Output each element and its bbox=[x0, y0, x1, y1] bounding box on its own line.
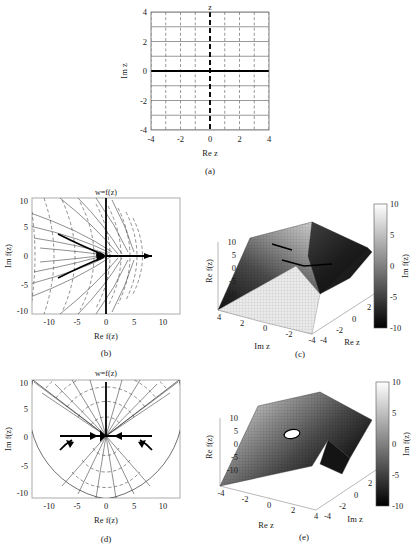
svg-text:10: 10 bbox=[228, 237, 237, 247]
svg-text:-5: -5 bbox=[231, 452, 238, 462]
svg-text:0: 0 bbox=[24, 251, 28, 261]
svg-text:-2: -2 bbox=[336, 325, 343, 335]
panel-d-title: w=f(z) bbox=[95, 369, 117, 378]
svg-text:0: 0 bbox=[208, 134, 212, 144]
panel-a-title: z bbox=[208, 3, 212, 12]
bold-image-lines bbox=[60, 382, 152, 450]
svg-text:5: 5 bbox=[232, 250, 236, 260]
panel-a-grid bbox=[151, 12, 269, 130]
svg-text:-10: -10 bbox=[227, 465, 238, 475]
svg-text:-2: -2 bbox=[285, 329, 292, 339]
svg-text:5: 5 bbox=[132, 501, 136, 511]
panel-e-zticks: 10 5 0 -5 -10 bbox=[227, 413, 238, 475]
svg-text:10: 10 bbox=[20, 378, 29, 388]
panel-b: w=f(z) bbox=[0, 182, 205, 360]
svg-text:0: 0 bbox=[263, 323, 267, 333]
panel-d-curves bbox=[29, 362, 183, 499]
colorbar-tick: 10 bbox=[390, 199, 399, 209]
svg-text:-10: -10 bbox=[17, 306, 28, 316]
svg-text:5: 5 bbox=[234, 426, 238, 436]
svg-text:0: 0 bbox=[104, 501, 108, 511]
panel-c-plot: 10 5 0 -5 -10 Re f(z) 4 2 0 -2 -4 Im z -… bbox=[200, 182, 413, 360]
panel-b-xlabel: Re f(z) bbox=[94, 331, 118, 341]
colorbar-tick: 5 bbox=[390, 230, 394, 240]
panel-d-yticks: 10 5 0 -5 -10 bbox=[17, 378, 28, 498]
panel-e-colorbar: 10 5 0 -5 -10 Im f(z) bbox=[376, 377, 411, 511]
panel-c-zlabel: Re f(z) bbox=[204, 259, 214, 283]
panel-d-caption: (d) bbox=[101, 534, 112, 544]
panel-d: w=f(z) bbox=[0, 362, 205, 552]
panel-c: 10 5 0 -5 -10 Re f(z) 4 2 0 -2 -4 Im z -… bbox=[200, 182, 413, 360]
panel-e: 10 5 0 -5 -10 Re f(z) -4 -2 0 2 4 Re z -… bbox=[200, 362, 413, 552]
svg-text:10: 10 bbox=[20, 196, 29, 206]
svg-text:2: 2 bbox=[368, 478, 372, 488]
svg-text:0: 0 bbox=[104, 317, 108, 327]
svg-text:-5: -5 bbox=[21, 461, 28, 471]
panel-d-ylabel: Im f(z) bbox=[3, 427, 13, 451]
svg-text:-5: -5 bbox=[229, 276, 236, 286]
panel-e-xlabel: Re z bbox=[258, 520, 274, 530]
panel-c-ylabel: Re z bbox=[344, 337, 360, 347]
svg-text:-4: -4 bbox=[324, 511, 332, 521]
panel-b-ylabel: Im f(z) bbox=[3, 244, 13, 268]
panel-b-curves bbox=[28, 198, 152, 314]
svg-text:4: 4 bbox=[314, 511, 319, 521]
panel-d-xlabel: Re f(z) bbox=[94, 515, 118, 525]
panel-b-plot: w=f(z) bbox=[0, 182, 205, 360]
svg-text:-2: -2 bbox=[339, 501, 346, 511]
panel-e-yticks: -4 -2 0 2 4 bbox=[324, 467, 383, 521]
panel-e-caption: (e) bbox=[299, 532, 309, 542]
svg-text:-4: -4 bbox=[217, 488, 225, 498]
colorbar-label: Im f(z) bbox=[401, 432, 411, 456]
colorbar-tick: -10 bbox=[390, 323, 401, 333]
svg-text:2: 2 bbox=[240, 318, 244, 328]
svg-text:0: 0 bbox=[143, 66, 147, 76]
panel-c-xlabel: Im z bbox=[254, 341, 270, 351]
colorbar-tick: -10 bbox=[392, 501, 403, 511]
panel-b-yticks: 10 5 0 -5 -10 bbox=[17, 196, 28, 316]
svg-text:-10: -10 bbox=[43, 317, 54, 327]
svg-text:2: 2 bbox=[143, 37, 147, 47]
svg-text:0: 0 bbox=[232, 263, 236, 273]
panel-c-colorbar: 10 5 0 -5 -10 Im f(z) bbox=[374, 199, 410, 333]
svg-text:4: 4 bbox=[267, 134, 272, 144]
svg-text:-2: -2 bbox=[177, 134, 184, 144]
svg-text:-4: -4 bbox=[147, 134, 155, 144]
panel-c-zticks: 10 5 0 -5 -10 bbox=[225, 237, 236, 299]
svg-text:2: 2 bbox=[291, 505, 295, 515]
svg-text:4: 4 bbox=[143, 7, 148, 17]
svg-text:2: 2 bbox=[237, 134, 241, 144]
colorbar-tick: -5 bbox=[392, 470, 399, 480]
panel-a-ylabel: Im z bbox=[119, 63, 129, 79]
panel-b-xticks: -10 -5 0 5 10 bbox=[43, 317, 167, 327]
panel-e-surface bbox=[220, 392, 372, 486]
panel-e-ylabel: Im z bbox=[347, 514, 363, 524]
svg-text:0: 0 bbox=[352, 314, 356, 324]
panel-c-caption: (c) bbox=[295, 349, 305, 359]
colorbar-tick: 10 bbox=[392, 377, 401, 387]
panel-b-title: w=f(z) bbox=[95, 188, 117, 197]
colorbar-tick: 5 bbox=[392, 408, 396, 418]
panel-b-caption: (b) bbox=[101, 348, 112, 358]
panel-a: z 4 2 0 -2 -4 - bbox=[105, 0, 305, 180]
svg-text:-5: -5 bbox=[21, 280, 28, 290]
svg-text:0: 0 bbox=[354, 490, 358, 500]
svg-text:-10: -10 bbox=[43, 501, 54, 511]
colorbar-label: Im f(z) bbox=[400, 254, 410, 278]
panel-e-plot: 10 5 0 -5 -10 Re f(z) -4 -2 0 2 4 Re z -… bbox=[200, 362, 413, 552]
svg-text:10: 10 bbox=[230, 413, 239, 423]
svg-text:-2: -2 bbox=[140, 96, 147, 106]
svg-text:4: 4 bbox=[217, 312, 222, 322]
svg-text:-4: -4 bbox=[320, 335, 328, 345]
svg-text:0: 0 bbox=[24, 432, 28, 442]
svg-text:-2: -2 bbox=[241, 494, 248, 504]
panel-a-caption: (a) bbox=[205, 166, 215, 176]
svg-text:5: 5 bbox=[132, 317, 136, 327]
panel-e-xticks: -4 -2 0 2 4 bbox=[217, 488, 318, 521]
svg-text:10: 10 bbox=[159, 501, 168, 511]
panel-a-xticks: -4 -2 0 2 4 bbox=[147, 134, 271, 144]
svg-text:0: 0 bbox=[267, 500, 271, 510]
panel-a-plot: z 4 2 0 -2 -4 - bbox=[105, 0, 305, 180]
svg-text:-4: -4 bbox=[308, 335, 316, 345]
svg-text:10: 10 bbox=[159, 317, 168, 327]
